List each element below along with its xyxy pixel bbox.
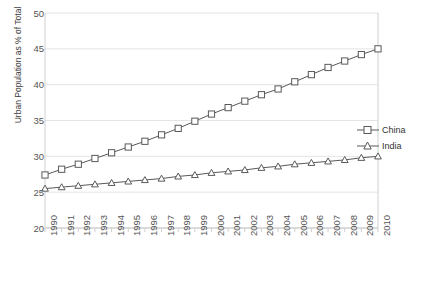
- legend-label-china: China: [382, 125, 406, 135]
- data-point-china-2009: [358, 51, 364, 57]
- series-layer: [42, 46, 382, 191]
- x-tick-2003: 2003: [265, 215, 275, 236]
- data-point-china-1993: [92, 155, 98, 161]
- data-point-china-1992: [75, 161, 81, 167]
- x-tick-2009: 2009: [365, 215, 375, 236]
- x-tick-2001: 2001: [232, 215, 242, 236]
- x-tick-2002: 2002: [249, 215, 259, 236]
- data-point-china-1999: [192, 118, 198, 124]
- gridlines: [45, 13, 378, 228]
- x-tick-1992: 1992: [82, 215, 92, 236]
- x-tick-2008: 2008: [349, 215, 359, 236]
- x-tick-1999: 1999: [199, 215, 209, 236]
- data-point-china-2003: [258, 92, 264, 98]
- y-tick-20: 20: [18, 224, 44, 234]
- legend-item-india[interactable]: India: [357, 138, 406, 154]
- chart-container: Urban Population as % of Total 50 45 40 …: [0, 0, 424, 285]
- data-point-china-1995: [125, 144, 131, 150]
- y-tick-35: 35: [18, 116, 44, 126]
- x-axis-tick-marks: [45, 228, 378, 232]
- data-point-china-2010: [375, 46, 381, 52]
- y-tick-25: 25: [18, 188, 44, 198]
- x-tick-1997: 1997: [166, 215, 176, 236]
- x-tick-2000: 2000: [216, 215, 226, 236]
- data-point-china-2000: [208, 111, 214, 117]
- data-point-china-1998: [175, 125, 181, 131]
- y-tick-30: 30: [18, 152, 44, 162]
- x-tick-1993: 1993: [99, 215, 109, 236]
- x-tick-1990: 1990: [49, 215, 59, 236]
- y-tick-50: 50: [18, 9, 44, 19]
- data-point-china-2006: [308, 72, 314, 78]
- y-axis-tick-labels: 50 45 40 35 30 25 20: [14, 0, 44, 285]
- x-tick-2006: 2006: [315, 215, 325, 236]
- legend-item-china[interactable]: China: [357, 122, 406, 138]
- data-point-china-2001: [225, 105, 231, 111]
- x-tick-2010: 2010: [382, 215, 392, 236]
- data-point-china-2002: [242, 98, 248, 104]
- x-tick-1995: 1995: [132, 215, 142, 236]
- legend-marker-square: [357, 124, 379, 136]
- x-tick-1996: 1996: [149, 215, 159, 236]
- x-tick-1991: 1991: [66, 215, 76, 236]
- y-tick-45: 45: [18, 44, 44, 54]
- x-tick-2004: 2004: [282, 215, 292, 236]
- x-tick-1998: 1998: [182, 215, 192, 236]
- chart-legend: China India: [357, 122, 406, 154]
- data-point-china-2008: [342, 58, 348, 64]
- data-point-china-1996: [142, 138, 148, 144]
- legend-marker-triangle: [357, 140, 379, 152]
- x-tick-2007: 2007: [332, 215, 342, 236]
- data-point-china-2007: [325, 64, 331, 70]
- x-tick-2005: 2005: [299, 215, 309, 236]
- y-tick-40: 40: [18, 80, 44, 90]
- data-point-china-1994: [109, 150, 115, 156]
- x-tick-1994: 1994: [116, 215, 126, 236]
- legend-label-india: India: [382, 141, 402, 151]
- data-point-china-1997: [158, 132, 164, 138]
- data-point-china-2004: [275, 86, 281, 92]
- data-point-china-2005: [292, 79, 298, 85]
- data-point-china-1991: [59, 166, 65, 172]
